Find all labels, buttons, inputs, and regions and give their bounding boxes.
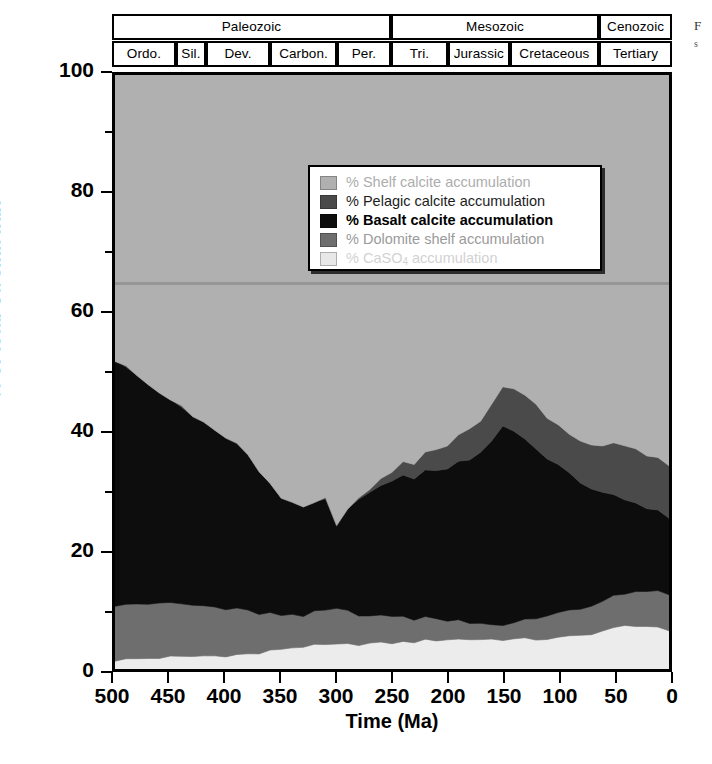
x-tick-400 <box>223 672 225 683</box>
legend-swatch-icon <box>320 233 337 247</box>
period-cell-carbon: Carbon. <box>270 41 337 67</box>
x-tick-350 <box>279 672 281 683</box>
era-cell-label: Cenozoic <box>607 20 664 34</box>
legend-item: % Shelf calcite accumulation <box>320 173 592 192</box>
y-tick-label-80: 80 <box>34 178 94 202</box>
y-tick-label-100: 100 <box>34 58 94 82</box>
y-tick-40 <box>101 431 112 433</box>
y-tick-20 <box>101 551 112 553</box>
period-cell-jurassic: Jurassic <box>448 41 510 67</box>
legend-item: % Pelagic calcite accumulation <box>320 192 592 211</box>
period-cell-per: Per. <box>337 41 391 67</box>
period-cell-tri: Tri. <box>391 41 448 67</box>
period-cell-label: Ordo. <box>127 47 161 61</box>
era-cell-paleozoic: Paleozoic <box>112 14 391 40</box>
period-cell-ordo: Ordo. <box>112 41 176 67</box>
period-cell-label: Dev. <box>224 47 251 61</box>
figure-root: PaleozoicMesozoicCenozoic Ordo.Sil.Dev.C… <box>0 0 712 764</box>
legend-item: % CaSO4 accumulation <box>320 249 592 268</box>
period-cell-label: Carbon. <box>279 47 328 61</box>
legend-label: % Pelagic calcite accumulation <box>346 194 545 209</box>
period-cell-cretaceous: Cretaceous <box>510 41 600 67</box>
scan-artifact-line <box>115 282 669 285</box>
y-tick-label-0: 0 <box>34 658 94 682</box>
y-minor-tick-70 <box>105 251 112 253</box>
period-cell-label: Tri. <box>410 47 429 61</box>
x-tick-100 <box>559 672 561 683</box>
era-cell-label: Paleozoic <box>222 20 281 34</box>
legend-label: % Dolomite shelf accumulation <box>346 232 544 247</box>
y-tick-80 <box>101 191 112 193</box>
caption-line-1: F <box>694 16 712 36</box>
legend-swatch-icon <box>320 252 337 266</box>
x-tick-50 <box>615 672 617 683</box>
y-axis-title: % of total Ca sink flux <box>0 201 5 398</box>
caption-line-2: s <box>694 36 712 51</box>
legend-label: % Shelf calcite accumulation <box>346 175 531 190</box>
period-cell-tertiary: Tertiary <box>599 41 672 67</box>
y-minor-tick-30 <box>105 491 112 493</box>
y-minor-tick-90 <box>105 131 112 133</box>
era-cell-cenozoic: Cenozoic <box>599 14 672 40</box>
x-tick-label-0: 0 <box>637 684 707 708</box>
plot-area <box>112 72 672 672</box>
legend-swatch-icon <box>320 176 337 190</box>
y-tick-label-20: 20 <box>34 538 94 562</box>
x-tick-500 <box>111 672 113 683</box>
x-tick-0 <box>671 672 673 683</box>
legend-label: % Basalt calcite accumulation <box>346 213 553 228</box>
chart-legend: % Shelf calcite accumulation% Pelagic ca… <box>308 165 602 271</box>
x-tick-250 <box>391 672 393 683</box>
caption-fragment: F s <box>694 16 712 51</box>
era-cell-mesozoic: Mesozoic <box>391 14 599 40</box>
timescale-era-row: PaleozoicMesozoicCenozoic <box>112 14 672 40</box>
y-tick-label-60: 60 <box>34 298 94 322</box>
x-tick-450 <box>167 672 169 683</box>
period-cell-dev: Dev. <box>206 41 270 67</box>
legend-swatch-icon <box>320 195 337 209</box>
legend-label: % CaSO4 accumulation <box>346 251 497 267</box>
y-minor-tick-10 <box>105 611 112 613</box>
y-tick-100 <box>101 71 112 73</box>
geologic-timescale: PaleozoicMesozoicCenozoic Ordo.Sil.Dev.C… <box>112 14 672 69</box>
period-cell-label: Tertiary <box>613 47 658 61</box>
x-axis-title: Time (Ma) <box>112 710 672 733</box>
x-tick-200 <box>447 672 449 683</box>
x-tick-300 <box>335 672 337 683</box>
period-cell-label: Per. <box>352 47 376 61</box>
timescale-period-row: Ordo.Sil.Dev.Carbon.Per.Tri.JurassicCret… <box>112 41 672 67</box>
legend-swatch-icon <box>320 214 337 228</box>
period-cell-label: Sil. <box>181 47 200 61</box>
period-cell-sil: Sil. <box>176 41 206 67</box>
legend-item: % Basalt calcite accumulation <box>320 211 592 230</box>
legend-item: % Dolomite shelf accumulation <box>320 230 592 249</box>
y-tick-60 <box>101 311 112 313</box>
period-cell-label: Jurassic <box>454 47 504 61</box>
era-cell-label: Mesozoic <box>466 20 524 34</box>
y-tick-label-40: 40 <box>34 418 94 442</box>
period-cell-label: Cretaceous <box>519 47 589 61</box>
x-tick-150 <box>503 672 505 683</box>
y-minor-tick-50 <box>105 371 112 373</box>
